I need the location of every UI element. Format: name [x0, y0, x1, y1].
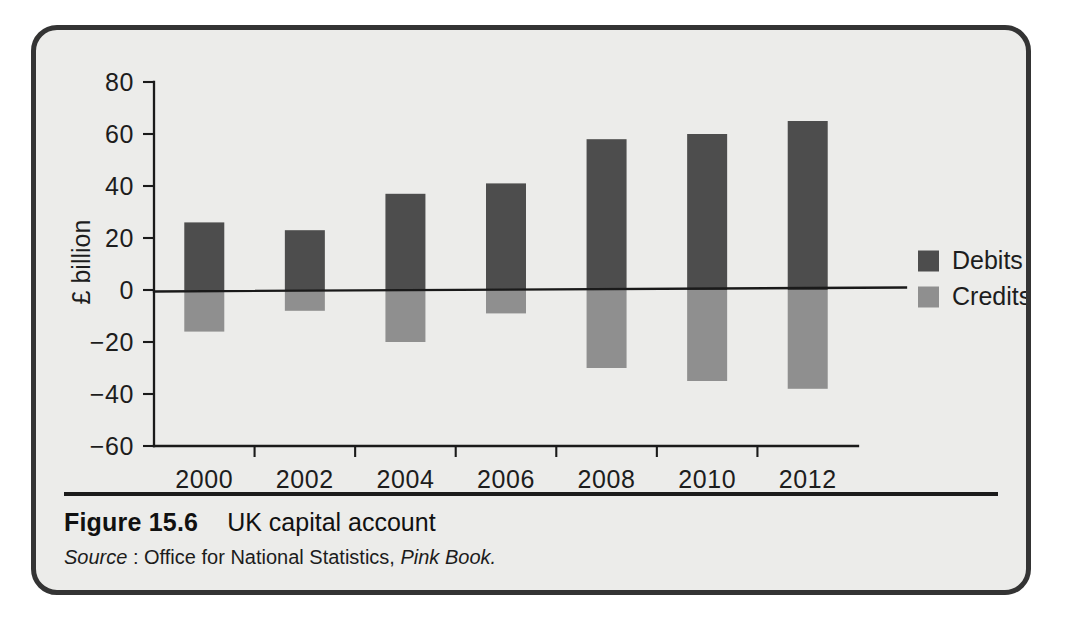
legend-swatch	[918, 251, 939, 272]
figure-caption: Figure 15.6 UK capital account	[64, 508, 998, 537]
y-axis-ticks: 806040200−20−40−60	[90, 68, 154, 460]
y-tick-label: 80	[105, 68, 134, 96]
bar	[486, 290, 526, 313]
bars-layer	[184, 121, 827, 389]
bar	[788, 290, 828, 389]
x-tick-label: 2012	[779, 465, 837, 490]
y-tick-label: 40	[105, 172, 134, 200]
x-tick-label: 2000	[175, 465, 233, 490]
y-axis-label: £ billion	[67, 220, 95, 305]
y-tick-label: −60	[90, 432, 134, 460]
bar	[385, 194, 425, 290]
bar	[184, 290, 224, 332]
x-tick-label: 2006	[477, 465, 535, 490]
x-tick-label: 2002	[276, 465, 334, 490]
bar-chart: £ billion 806040200−20−40−60 20002002200…	[36, 30, 1026, 490]
legend-label: Debits	[952, 246, 1023, 274]
bar	[788, 121, 828, 290]
legend-swatch	[918, 287, 939, 308]
figure-title: UK capital account	[227, 508, 435, 536]
bar	[587, 290, 627, 368]
bar	[587, 139, 627, 290]
figure-number: Figure 15.6	[64, 508, 198, 536]
y-tick-label: 60	[105, 120, 134, 148]
bar	[184, 222, 224, 290]
x-tick-label: 2004	[376, 465, 434, 490]
figure-source: Source : Office for National Statistics,…	[64, 546, 998, 569]
bar	[285, 290, 325, 311]
y-tick-label: −40	[90, 380, 134, 408]
y-tick-label: 0	[119, 276, 134, 304]
x-tick-label: 2008	[578, 465, 636, 490]
y-tick-label: 20	[105, 224, 134, 252]
legend-label: Credits	[952, 282, 1026, 310]
figure-caption-block: Figure 15.6 UK capital account Source : …	[64, 492, 998, 569]
x-axis-ticks: 2000200220042006200820102012	[175, 446, 836, 490]
figure-frame: £ billion 806040200−20−40−60 20002002200…	[31, 25, 1031, 595]
chart-legend: DebitsCredits	[918, 246, 1026, 310]
source-publication: Pink Book.	[400, 546, 496, 568]
source-label: Source	[64, 546, 127, 568]
y-tick-label: −20	[90, 328, 134, 356]
source-text: : Office for National Statistics,	[133, 546, 401, 568]
caption-divider	[64, 492, 998, 496]
bar	[285, 230, 325, 290]
x-tick-label: 2010	[678, 465, 736, 490]
bar	[687, 134, 727, 290]
bar	[486, 183, 526, 290]
bar	[687, 290, 727, 381]
bar	[385, 290, 425, 342]
chart-plot-area: £ billion 806040200−20−40−60 20002002200…	[36, 30, 1026, 490]
